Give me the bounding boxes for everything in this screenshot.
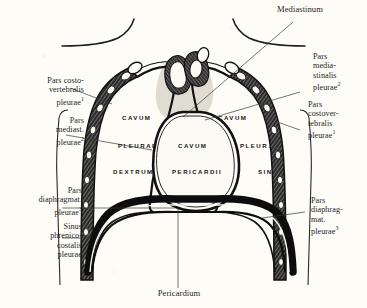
footnote-marker-1-left: 1 [81,96,84,102]
footnote-marker-2-left: 2 [81,136,84,142]
interior-label-cavum-sinistrum-line2: PLEUR. [240,142,271,149]
interior-label-cavum-dextrum-line3: DEXTRUM [113,168,154,175]
label-pars-costovertebralis-left: Pars costo- vertebralis pleurae1 [6,76,84,107]
shoulder-contour-left [62,19,134,46]
footnote-marker-3-right: 3 [335,225,338,231]
footnote-marker-1-right: 1 [332,129,335,135]
label-pericardium: Pericardium [143,289,215,298]
interior-label-cavum-dextrum-line1: CAVUM [122,114,151,121]
label-pars-mediastinalis-left: Pars mediast. pleurae2 [6,116,84,147]
interior-label-cavum-sinistrum-line1: CAVUM [218,114,247,121]
shoulder-contour-right [233,19,305,46]
footnote-marker-3-left: 3 [79,206,82,212]
interior-label-cavum-dextrum-line2: PLEURAE [118,142,158,149]
label-pars-costovertebralis-right: Pars costover- tebralis pleurae1 [308,100,367,140]
interior-label-cavum-sinistrum-line3: SIN. [258,168,276,175]
interior-label-cavum-pericardii-line2: PERICARDII [172,168,222,175]
label-mediastinum: Mediastinum [265,5,335,14]
label-pars-diaphragmatica-right: Pars diaphrag- mat. pleurae3 [311,196,367,236]
thorax-cross-section-drawing [0,0,367,308]
interior-label-cavum-pericardii-line1: CAVUM [178,142,207,149]
label-sinus-phrenicocostalis: Sinus phrenico- costalis pleurae [6,222,82,260]
footnote-marker-2-right: 2 [337,81,340,87]
label-pars-mediastinalis-right: Pars media- stinalis pleurae2 [313,52,367,92]
label-pars-diaphragmatica-left: Pars diaphragmat. pleurae3 [2,186,82,217]
anatomical-figure: Pars costo- vertebralis pleurae1 Pars me… [0,0,367,308]
